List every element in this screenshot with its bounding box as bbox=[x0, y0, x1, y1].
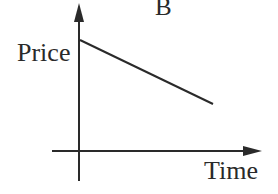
y-axis-label: Price bbox=[17, 40, 70, 66]
price-line bbox=[80, 40, 213, 104]
chart-title: B bbox=[155, 0, 172, 19]
x-axis-label: Time bbox=[204, 158, 258, 184]
price-time-chart: B Price Time bbox=[0, 0, 278, 194]
y-axis-arrow-icon bbox=[74, 3, 84, 22]
x-axis-arrow-icon bbox=[243, 146, 262, 156]
